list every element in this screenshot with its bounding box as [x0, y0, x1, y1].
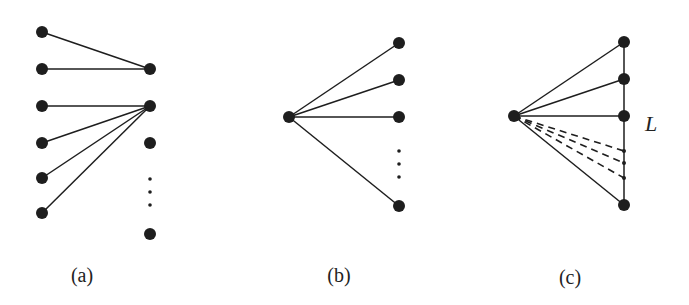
graph-node: [508, 110, 520, 122]
ellipsis-dot: [397, 149, 401, 153]
edge: [514, 42, 624, 116]
graph-node: [618, 199, 630, 211]
graph-node: [36, 63, 48, 75]
graph-node: [144, 137, 156, 149]
panel-c: (c)L: [508, 36, 657, 289]
graph-node: [144, 100, 156, 112]
graph-node: [144, 228, 156, 240]
graph-node: [618, 110, 630, 122]
edge: [42, 106, 150, 178]
bipartite-graph-figure: (a) (b) (c)L: [0, 0, 689, 305]
edge: [289, 80, 399, 117]
edge: [42, 32, 150, 69]
dashed-edge: [514, 116, 624, 163]
graph-node: [36, 137, 48, 149]
edge: [42, 106, 150, 143]
ellipsis-dot: [148, 190, 152, 194]
edge: [514, 116, 624, 205]
panel-a: (a): [36, 26, 156, 287]
graph-node: [36, 26, 48, 38]
graph-node: [36, 207, 48, 219]
graph-node: [393, 74, 405, 86]
graph-node: [283, 111, 295, 123]
graph-node: [618, 36, 630, 48]
small-node: [622, 176, 626, 180]
edge: [289, 43, 399, 117]
panel-label: (c): [559, 266, 581, 289]
graph-node: [144, 63, 156, 75]
line-label: L: [644, 111, 657, 136]
panel-label: (a): [71, 264, 93, 287]
dashed-edge: [514, 116, 624, 178]
edge: [514, 79, 624, 116]
edge: [289, 117, 399, 206]
edge: [42, 106, 150, 213]
ellipsis-dot: [397, 162, 401, 166]
small-node: [622, 161, 626, 165]
graph-node: [393, 37, 405, 49]
ellipsis-dot: [148, 177, 152, 181]
graph-node: [618, 73, 630, 85]
dashed-edge: [514, 116, 624, 151]
ellipsis-dot: [148, 203, 152, 207]
graph-node: [393, 200, 405, 212]
ellipsis-dot: [397, 175, 401, 179]
graph-node: [36, 172, 48, 184]
small-node: [622, 149, 626, 153]
graph-node: [36, 100, 48, 112]
panel-label: (b): [327, 264, 350, 287]
panel-b: (b): [283, 37, 405, 287]
graph-node: [393, 111, 405, 123]
